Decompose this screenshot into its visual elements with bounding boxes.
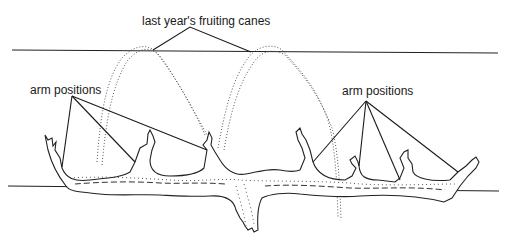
label-fruiting-canes: last year's fruiting canes	[142, 14, 270, 28]
vine-trunk	[45, 128, 479, 232]
label-arm-positions-right: arm positions	[342, 84, 413, 98]
diagram-canvas	[0, 0, 513, 250]
grapevine-diagram: last year's fruiting canes arm positions…	[0, 0, 513, 250]
right-arm-leader-lines	[313, 101, 458, 180]
cane-leader-lines	[153, 27, 251, 52]
label-arm-positions-left: arm positions	[30, 83, 101, 97]
left-arm-leader-lines	[62, 96, 207, 167]
